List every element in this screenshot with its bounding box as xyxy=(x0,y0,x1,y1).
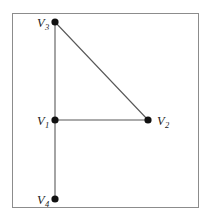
graph-canvas: V1V2V3V4 xyxy=(0,0,210,218)
graph-vertex-v4 xyxy=(51,195,58,202)
graph-figure: V1V2V3V4 xyxy=(0,0,210,218)
graph-vertex-v1 xyxy=(51,116,58,123)
graph-vertex-v3 xyxy=(51,18,58,25)
graph-vertex-v2 xyxy=(144,116,151,123)
figure-border xyxy=(13,14,199,208)
